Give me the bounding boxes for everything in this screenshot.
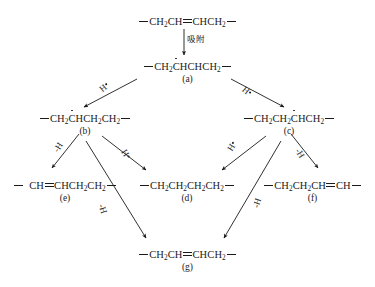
double-bond-icon: [326, 182, 335, 187]
node-a-label: (a): [0, 75, 375, 85]
edge-label-adsorption: 吸附: [187, 35, 205, 44]
formula-e: CHCHCH2CH2: [13, 180, 116, 192]
node-f: CH2CH2CHCH (f): [250, 176, 375, 204]
formula-top: CH2CHCHCH2: [138, 16, 236, 28]
free-bond-right: [325, 118, 334, 119]
free-bond-left: [14, 185, 23, 186]
node-b-label: (b): [10, 127, 160, 137]
radical-carbon: C: [291, 113, 298, 124]
edge-label-a-to-c: H: [240, 85, 253, 98]
node-d: CH2CH2CH2CH2 (d): [125, 176, 249, 204]
free-bond-right: [227, 254, 236, 255]
free-bond-left: [139, 21, 148, 22]
free-bond-left: [140, 185, 149, 186]
node-f-label: (f): [250, 194, 375, 204]
double-bond-icon: [45, 182, 54, 187]
free-bond-right: [107, 185, 116, 186]
double-bond-icon: [183, 18, 192, 23]
radical-dot-icon: [232, 141, 234, 143]
edge-label-b-to-e: -H: [52, 141, 65, 154]
node-d-label: (d): [125, 194, 249, 204]
free-bond-left: [40, 118, 49, 119]
free-bond-left: [244, 118, 253, 119]
formula-g: CH2CHCHCH2: [138, 249, 236, 261]
node-g: CH2CHCHCH2 (g): [0, 245, 375, 273]
formula-f: CH2CH2CHCH: [263, 180, 362, 192]
reaction-mechanism-diagram: CH2CHCHCH2 CH2CHCHCH2 (a) CH2CHCH2CH2 (b…: [0, 0, 375, 287]
formula-d: CH2CH2CH2CH2: [139, 180, 235, 192]
edge-label-b-to-g: -H: [97, 203, 108, 215]
node-e: CHCHCH2CH2 (e): [0, 176, 130, 204]
node-b: CH2CHCH2CH2 (b): [10, 109, 160, 137]
free-bond-left: [264, 185, 273, 186]
free-bond-left: [139, 254, 148, 255]
free-bond-right: [225, 185, 234, 186]
radical-dot-icon: [105, 83, 108, 86]
edge-label-b-to-d: H: [119, 148, 131, 160]
free-bond-right: [352, 185, 361, 186]
radical-dot-icon: [128, 155, 130, 157]
node-top: CH2CHCHCH2: [0, 12, 375, 29]
edge-label-c-to-g: -H: [252, 197, 263, 209]
double-bond-icon: [183, 251, 192, 256]
radical-carbon: C: [173, 61, 180, 72]
formula-c: CH2CH2CHCH2: [243, 113, 335, 125]
formula-a: CH2CHCHCH2: [143, 61, 231, 73]
node-a: CH2CHCHCH2 (a): [0, 57, 375, 85]
free-bond-left: [144, 66, 153, 67]
node-c: CH2CH2CHCH2 (c): [214, 109, 364, 137]
edge-label-c-to-f: -H: [293, 147, 306, 160]
edge-label-c-to-d: H: [226, 140, 238, 152]
free-bond-right: [227, 21, 236, 22]
node-g-label: (g): [0, 263, 375, 273]
free-bond-right: [222, 66, 231, 67]
formula-b: CH2CHCH2CH2: [39, 113, 131, 125]
radical-carbon: C: [68, 113, 75, 124]
node-c-label: (c): [214, 127, 364, 137]
node-e-label: (e): [0, 194, 130, 204]
free-bond-right: [121, 118, 130, 119]
radical-dot-icon: [249, 91, 252, 94]
